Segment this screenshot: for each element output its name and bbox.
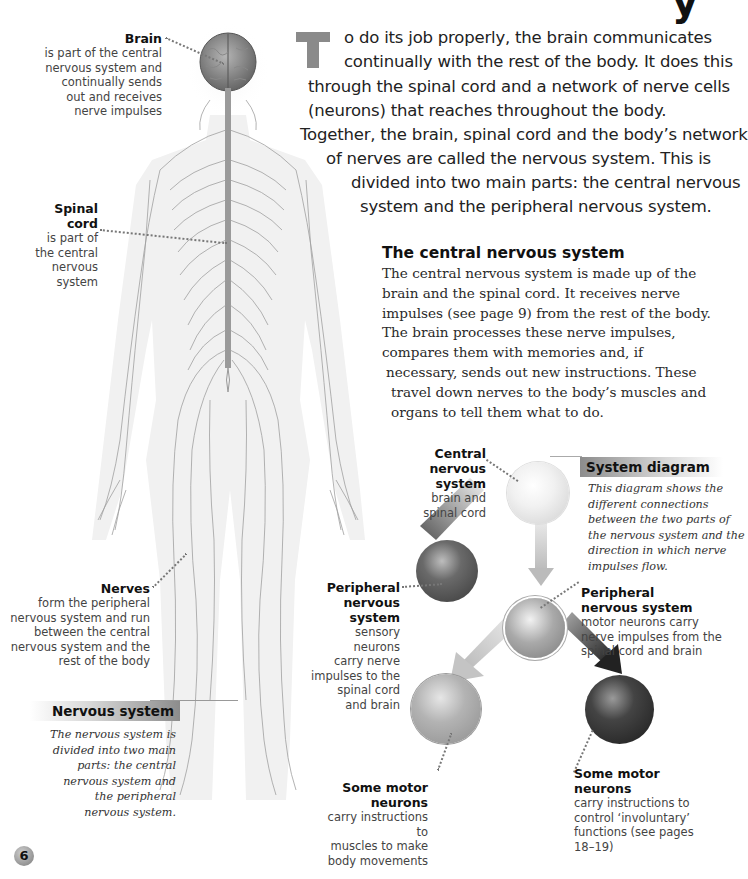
system-diagram-box-heading: System diagram [580,457,723,477]
peripheral-sensory-line: impulses to the [310,669,400,684]
central-section-line: The brain processes these nerve impulses… [382,323,676,343]
nervous-system-box-line: parts: the central [30,758,176,774]
sphere-central-nervous-system [507,462,569,524]
nervous-system-box-heading: Nervous system [30,701,180,721]
system-diagram-box-line: This diagram shows the [588,481,723,497]
central-label-text: brain and spinal cord [420,491,486,520]
nervous-system-box-line: nervous system and [30,774,176,790]
spinal-cord-label-line: system [20,275,98,290]
intro-line: o do its job properly, the brain communi… [344,26,712,50]
central-label-title-line: nervous [420,461,486,476]
central-label-line: spinal cord [420,506,486,521]
drop-cap [296,32,330,70]
nerves-label-line: nervous system and run [0,611,150,626]
page-heading-fragment: y [672,0,698,24]
motor-voluntary-line: muscles to make [318,839,428,854]
motor-involuntary-label: Some motor neurons carry instructions to… [574,766,723,854]
nerves-label-line: nervous system and the [0,640,150,655]
peripheral-sensory-line: spinal cord [310,683,400,698]
nervous-system-box-line: divided into two main [30,743,176,759]
brain-label-line: continually sends [40,75,162,90]
central-section-line: compares them with memories and, if [382,343,643,363]
system-diagram-box: System diagram This diagram shows the di… [580,456,723,574]
motor-involuntary-line: carry instructions to [574,796,723,811]
central-section-line: organs to tell them what to do. [391,403,604,423]
motor-involuntary-text: carry instructions to control ‘involunta… [574,796,723,854]
peripheral-motor-title-line: nervous system [581,600,723,615]
brain-label-line: is part of the central [40,46,162,61]
system-diagram-box-line: between the two parts of [588,512,723,528]
nerves-label-line: form the peripheral [0,596,150,611]
sphere-peripheral-sensory [416,540,478,602]
motor-involuntary-title-line: neurons [574,781,723,796]
nervous-system-box-line: nervous system. [30,805,176,821]
system-diagram-box-line: direction in which nerve [588,543,723,559]
intro-line: system and the peripheral nervous system… [360,195,712,219]
brain-label-text: is part of the central nervous system an… [40,46,162,119]
central-label-title: Central nervous system [420,446,486,491]
system-diagram-box-rule [550,456,582,457]
peripheral-sensory-title-line: nervous [310,595,400,610]
sphere-motor-involuntary [585,675,654,744]
central-nervous-system-label: Central nervous system brain and spinal … [420,446,486,520]
motor-voluntary-title-line: Some motor [318,780,428,795]
nerves-label-line: rest of the body [0,654,150,669]
spinal-cord-label-line: the central [20,246,98,261]
spinal-cord-label-line: is part of [20,231,98,246]
system-diagram-box-line: the nervous system and the [588,528,723,544]
central-label-title-line: system [420,476,486,491]
motor-voluntary-line: body movements [318,854,428,869]
nervous-system-box-line: the peripheral [30,789,176,805]
peripheral-motor-label: Peripheral nervous system motor neurons … [581,585,723,659]
motor-involuntary-title: Some motor neurons [574,766,723,796]
sphere-motor-voluntary [411,674,481,744]
drop-cap-stem [307,32,319,68]
page-number-badge: 6 [14,846,34,866]
peripheral-motor-text: motor neurons carry nerve impulses from … [581,615,723,659]
brain-label-line: nervous system and [40,61,162,76]
motor-involuntary-line: functions (see pages [574,825,723,840]
intro-line: Together, the brain, spinal cord and the… [300,123,748,147]
central-section-line: travel down nerves to the body’s muscles… [391,383,706,403]
intro-line: through the spinal cord and a network of… [308,75,730,99]
peripheral-motor-line: nerve impulses from the [581,630,723,645]
peripheral-sensory-line: and brain [310,698,400,713]
peripheral-sensory-line: carry nerve [310,654,400,669]
motor-involuntary-line: control ‘involuntary’ [574,811,723,826]
brain-label-line: out and receives [40,90,162,105]
spinal-cord-title-line: Spinal [20,201,98,216]
peripheral-motor-line: spinal cord and brain [581,644,723,659]
nerves-label-text: form the peripheral nervous system and r… [0,596,150,669]
system-diagram-box-line: impulses flow. [588,559,723,575]
brain-label-title: Brain [40,31,162,46]
brain-illustration [200,33,256,91]
peripheral-sensory-text: sensory neurons carry nerve impulses to … [310,625,400,712]
nervous-system-box-rule [150,700,238,701]
spinal-cord-label-title: Spinal cord [20,201,98,231]
peripheral-sensory-title-line: system [310,610,400,625]
motor-voluntary-title-line: neurons [318,795,428,810]
sphere-peripheral-motor [505,598,565,658]
nervous-system-box-text: The nervous system is divided into two m… [30,727,180,820]
motor-voluntary-line: carry instructions to [318,810,428,839]
central-section-line: brain and the spinal cord. It receives n… [382,284,680,304]
central-section-line: impulses (see page 9) from the rest of t… [382,304,711,324]
central-label-line: brain and [420,491,486,506]
peripheral-motor-title: Peripheral nervous system [581,585,723,615]
nerves-label-line: between the central [0,625,150,640]
spinal-cord-title-line: cord [20,216,98,231]
central-label-title-line: Central [420,446,486,461]
peripheral-motor-line: motor neurons carry [581,615,723,630]
peripheral-sensory-label: Peripheral nervous system sensory neuron… [310,580,400,712]
motor-voluntary-title: Some motor neurons [318,780,428,810]
peripheral-sensory-title-line: Peripheral [310,580,400,595]
intro-line: (neurons) that reaches throughout the bo… [308,99,666,123]
intro-line: of nerves are called the nervous system.… [326,147,711,171]
system-diagram-box-text: This diagram shows the different connect… [580,481,723,574]
intro-line: divided into two main parts: the central… [351,171,741,195]
brain-label: Brain is part of the central nervous sys… [40,31,162,119]
spinal-cord-label-text: is part of the central nervous system [20,231,98,289]
spinal-cord-label: Spinal cord is part of the central nervo… [20,201,98,289]
motor-voluntary-label: Some motor neurons carry instructions to… [318,780,428,868]
nervous-system-box-line: The nervous system is [30,727,176,743]
